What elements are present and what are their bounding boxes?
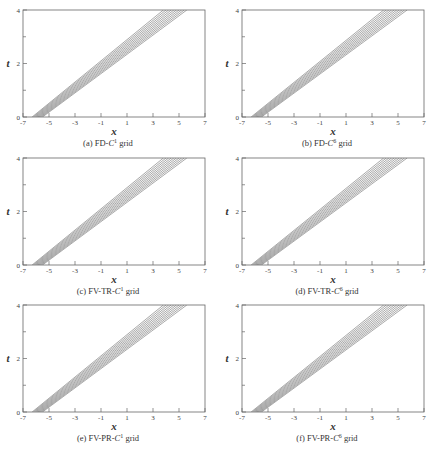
chart-svg: -7-5-3-11357024xt: [0, 148, 216, 296]
plot-frame: [242, 158, 424, 265]
x-tick-label: -5: [46, 414, 52, 422]
contour-line: [38, 10, 177, 117]
chart-svg: -7-5-3-11357024xt: [0, 0, 216, 148]
y-tick-label: 0: [236, 409, 240, 417]
x-axis-label: x: [329, 125, 336, 137]
y-tick-label: 2: [17, 60, 21, 68]
y-tick-label: 2: [17, 208, 21, 216]
chart-panel-c: -7-5-3-11357024xt(c) FV-TR-C1 grid: [0, 148, 216, 296]
x-tick-label: 5: [177, 414, 181, 422]
contour-line: [36, 158, 172, 265]
contour-line: [251, 158, 384, 265]
contour-line: [38, 305, 177, 412]
contour-line: [38, 158, 177, 265]
contour-line: [36, 10, 172, 117]
x-tick-label: -1: [317, 119, 323, 127]
x-tick-label: 5: [396, 267, 400, 275]
contour-line: [32, 305, 163, 412]
contour-line: [32, 158, 163, 265]
contour-band: [251, 305, 407, 412]
contour-line: [251, 10, 384, 117]
contour-line: [33, 158, 166, 265]
chart-svg: -7-5-3-11357024xt: [219, 0, 433, 148]
y-tick-label: 4: [17, 302, 21, 310]
x-axis-label: x: [110, 420, 117, 432]
subfigure-caption: (b) FD-C6 grid: [219, 138, 433, 148]
caption-prefix: (a) FD-: [83, 138, 108, 148]
x-tick-label: -5: [265, 267, 271, 275]
y-tick-label: 0: [17, 114, 21, 122]
subfigure-caption: (f) FV-PR-C6 grid: [219, 433, 433, 443]
contour-line: [37, 10, 174, 117]
contour-line: [256, 305, 394, 412]
caption-prefix: (b) FD-: [302, 138, 328, 148]
contour-line: [253, 10, 388, 117]
contour-line: [252, 305, 386, 412]
x-tick-label: 3: [151, 119, 155, 127]
contour-line: [259, 158, 402, 265]
x-tick-label: -3: [72, 119, 78, 127]
caption-prefix: (f) FV-PR-: [296, 433, 333, 443]
x-tick-label: 7: [422, 414, 426, 422]
x-tick-label: -1: [98, 414, 104, 422]
contour-line: [40, 10, 181, 117]
contour-line: [255, 158, 392, 265]
contour-line: [40, 158, 181, 265]
x-tick-label: -7: [20, 414, 26, 422]
contour-line: [39, 158, 179, 265]
contour-line: [255, 10, 392, 117]
x-tick-label: -3: [72, 267, 78, 275]
contour-line: [260, 158, 404, 265]
y-tick-label: 2: [236, 208, 240, 216]
y-tick-label: 0: [17, 262, 21, 270]
contour-band: [32, 305, 187, 412]
x-tick-label: 1: [344, 267, 348, 275]
contour-line: [253, 158, 388, 265]
y-axis-label: t: [6, 205, 10, 217]
contour-line: [251, 305, 384, 412]
y-tick-label: 2: [236, 355, 240, 363]
x-tick-label: 7: [422, 119, 426, 127]
x-tick-label: -5: [46, 267, 52, 275]
y-axis-label: t: [225, 57, 229, 69]
x-axis-label: x: [329, 420, 336, 432]
contour-line: [43, 158, 187, 265]
contour-line: [40, 305, 181, 412]
x-tick-label: -3: [72, 414, 78, 422]
chart-panel-a: -7-5-3-11357024xt(a) FD-C1 grid: [0, 0, 216, 148]
x-tick-label: -1: [98, 119, 104, 127]
x-tick-label: 5: [177, 267, 181, 275]
contour-line: [260, 305, 404, 412]
x-axis-label: x: [110, 125, 117, 137]
contour-band: [251, 10, 407, 117]
y-axis-label: t: [225, 352, 229, 364]
y-axis-label: t: [6, 352, 10, 364]
contour-line: [258, 10, 399, 117]
y-axis-label: t: [6, 57, 10, 69]
chart-svg: -7-5-3-11357024xt: [219, 148, 433, 296]
x-tick-label: 7: [203, 414, 207, 422]
x-tick-label: 1: [344, 414, 348, 422]
x-tick-label: -3: [291, 414, 297, 422]
x-tick-label: 3: [370, 414, 374, 422]
x-tick-label: 7: [422, 267, 426, 275]
contour-line: [258, 305, 399, 412]
x-tick-label: -5: [46, 119, 52, 127]
chart-panel-b: -7-5-3-11357024xt(b) FD-C6 grid: [219, 0, 433, 148]
contour-line: [34, 158, 168, 265]
contour-line: [37, 158, 174, 265]
contour-band: [32, 158, 187, 265]
y-tick-label: 4: [236, 155, 240, 163]
contour-line: [259, 10, 402, 117]
x-tick-label: 5: [396, 119, 400, 127]
plot-frame: [23, 158, 205, 265]
y-tick-label: 4: [236, 302, 240, 310]
x-tick-label: 3: [151, 414, 155, 422]
contour-line: [41, 305, 184, 412]
plot-frame: [242, 305, 424, 412]
caption-suffix: grid: [336, 138, 352, 148]
plot-frame: [242, 10, 424, 117]
x-tick-label: 5: [396, 414, 400, 422]
x-tick-label: 1: [125, 414, 129, 422]
x-tick-label: 1: [125, 267, 129, 275]
